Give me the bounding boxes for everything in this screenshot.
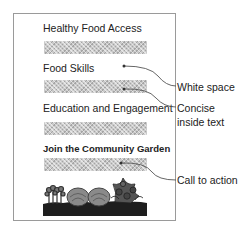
annotation-white-space: White space xyxy=(177,80,235,94)
arrow-head-icon xyxy=(123,65,126,68)
arrow-head-icon xyxy=(123,88,126,91)
annotation-call-to-action: Call to action xyxy=(177,173,238,187)
arrow-head-icon xyxy=(120,162,123,165)
annotation-concise-text: Concise inside text xyxy=(177,101,245,129)
